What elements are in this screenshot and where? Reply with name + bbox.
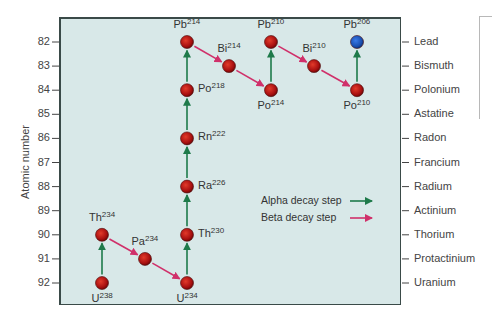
isotope-label-bi210: Bi210 <box>303 42 326 54</box>
isotope-node-pb206 <box>351 36 364 49</box>
beta-decay-arrow <box>321 70 349 86</box>
isotope-node-u234 <box>181 277 194 290</box>
isotope-label-th234: Th234 <box>89 211 115 223</box>
isotope-label-u238: U238 <box>92 292 113 304</box>
isotope-label-rn222: Rn222 <box>198 130 225 142</box>
beta-decay-arrow <box>152 263 179 279</box>
isotope-label-po214: Po214 <box>258 99 285 111</box>
isotope-nodes <box>96 36 364 290</box>
isotope-node-pa234 <box>139 252 152 265</box>
isotope-label-pb214: Pb214 <box>174 18 201 30</box>
beta-decay-arrow <box>236 70 263 86</box>
isotope-label-u234: U234 <box>177 292 198 304</box>
legend-beta-label: Beta decay step <box>261 211 336 223</box>
isotope-label-pb210: Pb210 <box>258 18 285 30</box>
isotope-node-po210 <box>351 84 364 97</box>
isotope-label-pa234: Pa234 <box>132 235 159 247</box>
isotope-label-ra226: Ra226 <box>198 179 225 191</box>
isotope-label-po218: Po218 <box>198 82 225 94</box>
isotope-label-po210: Po210 <box>344 99 371 111</box>
isotope-node-pb210 <box>265 36 278 49</box>
legend-arrows <box>350 201 372 218</box>
isotope-node-ra226 <box>181 180 194 193</box>
isotope-node-u238 <box>96 277 109 290</box>
isotope-node-th234 <box>96 228 109 241</box>
legend-alpha-label: Alpha decay step <box>261 194 342 206</box>
isotope-node-bi210 <box>308 60 321 73</box>
isotope-node-po214 <box>265 84 278 97</box>
isotope-node-po218 <box>181 84 194 97</box>
isotope-node-pb214 <box>181 36 194 49</box>
isotope-label-bi214: Bi214 <box>218 42 241 54</box>
isotope-node-th230 <box>181 228 194 241</box>
isotope-node-rn222 <box>181 132 194 145</box>
isotope-label-th230: Th230 <box>198 227 224 239</box>
isotope-node-bi214 <box>223 60 236 73</box>
isotope-label-pb206: Pb206 <box>344 18 371 30</box>
